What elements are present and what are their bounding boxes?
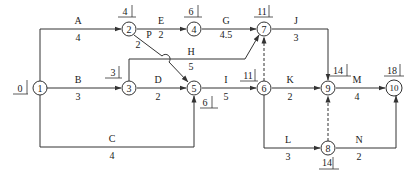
svg-text:18: 18 <box>387 65 397 76</box>
node-5: 5 <box>187 81 201 95</box>
svg-text:3: 3 <box>111 67 116 78</box>
node-2: 2 <box>122 22 136 36</box>
label-H-dur: 5 <box>189 61 194 72</box>
time-n2: 4 <box>118 5 136 17</box>
node-1: 1 <box>33 81 47 95</box>
svg-text:9: 9 <box>326 83 331 94</box>
svg-text:4: 4 <box>123 6 128 17</box>
edges <box>40 29 396 148</box>
label-K-name: K <box>286 74 294 85</box>
time-n4: 6 <box>184 5 202 17</box>
svg-text:5: 5 <box>192 83 197 94</box>
svg-text:8: 8 <box>326 143 331 154</box>
label-E-name: E <box>158 15 164 26</box>
svg-text:3: 3 <box>127 83 132 94</box>
time-n6: 11 <box>240 69 258 81</box>
svg-text:2: 2 <box>127 24 132 35</box>
edge-L <box>264 95 320 148</box>
node-10: 10 <box>386 80 402 96</box>
time-n9: 14 <box>330 64 351 76</box>
label-G-name: G <box>222 15 229 26</box>
label-L-dur: 3 <box>286 151 291 162</box>
label-P-dur: 2 <box>136 39 141 50</box>
label-E-dur: 2 <box>159 29 164 40</box>
svg-text:6: 6 <box>203 97 208 108</box>
svg-text:14: 14 <box>322 157 332 168</box>
svg-text:11: 11 <box>243 70 253 81</box>
svg-text:14: 14 <box>333 65 343 76</box>
time-n3: 3 <box>105 66 122 78</box>
label-B-dur: 3 <box>76 91 81 102</box>
svg-text:10: 10 <box>390 83 400 93</box>
label-N-dur: 2 <box>357 151 362 162</box>
edge-N <box>336 96 396 148</box>
node-8: 8 <box>321 141 335 155</box>
edge-J <box>272 29 328 80</box>
label-B-name: B <box>75 74 82 85</box>
label-G-dur: 4.5 <box>220 29 233 40</box>
node-4: 4 <box>187 22 201 36</box>
label-D-dur: 2 <box>156 91 161 102</box>
label-I-dur: 5 <box>224 91 229 102</box>
svg-text:11: 11 <box>257 6 267 17</box>
label-N-name: N <box>355 134 362 145</box>
time-n5: 6 <box>200 96 218 108</box>
label-A-name: A <box>74 15 82 26</box>
time-labels: 0 4 3 6 6 11 11 <box>13 5 404 169</box>
time-n8: 14 <box>319 157 339 169</box>
label-M-name: M <box>353 74 362 85</box>
node-3: 3 <box>122 81 136 95</box>
label-M-dur: 4 <box>355 91 360 102</box>
label-C-name: C <box>109 133 116 144</box>
node-7: 7 <box>257 22 271 36</box>
node-9: 9 <box>321 81 335 95</box>
label-H-name: H <box>187 46 194 57</box>
label-J-dur: 3 <box>294 32 299 43</box>
time-n1: 0 <box>13 80 28 94</box>
time-n10: 18 <box>384 64 404 76</box>
svg-text:6: 6 <box>262 83 267 94</box>
edge-H <box>129 35 259 81</box>
label-L-name: L <box>285 134 291 145</box>
label-A-dur: 4 <box>76 32 81 43</box>
label-D-name: D <box>154 74 161 85</box>
label-P-name: P <box>146 29 152 40</box>
network-diagram: A 4 B 3 C 4 P 2 E 2 G 4.5 H 5 D 2 I 5 J … <box>0 0 411 174</box>
svg-text:4: 4 <box>192 24 197 35</box>
svg-text:6: 6 <box>189 6 194 17</box>
label-J-name: J <box>294 15 298 26</box>
svg-text:7: 7 <box>262 24 267 35</box>
time-n7: 11 <box>254 5 273 17</box>
node-6: 6 <box>257 81 271 95</box>
label-K-dur: 2 <box>288 91 293 102</box>
label-C-dur: 4 <box>110 150 115 161</box>
label-I-name: I <box>224 74 227 85</box>
svg-text:0: 0 <box>18 83 23 94</box>
svg-text:1: 1 <box>38 83 43 94</box>
edge-C <box>40 95 194 147</box>
